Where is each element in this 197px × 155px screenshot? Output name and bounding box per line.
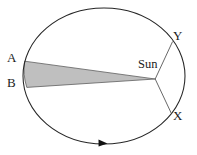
diagram-canvas [0,0,197,155]
radius-line-to-y [155,42,172,80]
orbit-point-label-x: X [173,109,182,122]
radius-line-to-x [155,79,171,114]
swept-area-sector [24,61,155,87]
orbit-point-label-y: Y [173,29,182,42]
orbit-direction-arrow-icon [99,140,108,147]
orbit-diagram: A B Y X Sun [0,0,197,155]
orbit-point-label-b: B [7,76,16,89]
orbit-point-label-a: A [7,51,16,64]
sun-focus-label: Sun [138,58,157,71]
